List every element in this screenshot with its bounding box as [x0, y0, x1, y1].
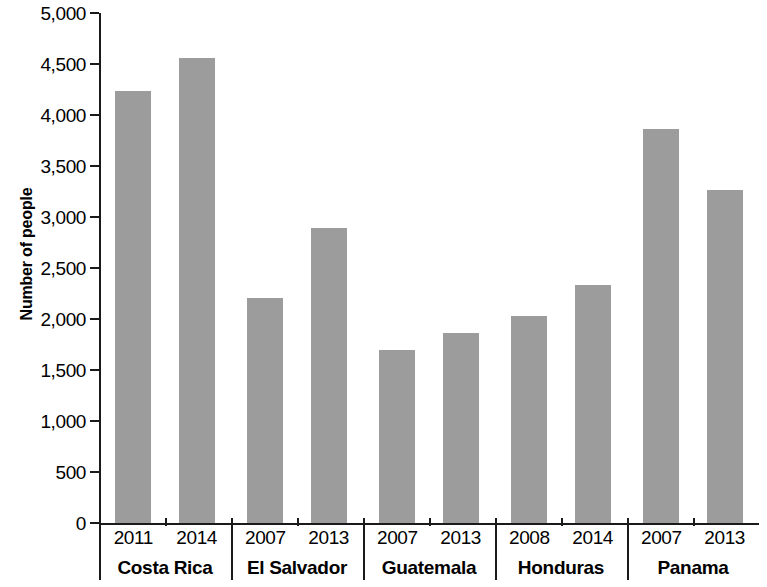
y-axis-tick-mark: [90, 369, 99, 371]
x-axis-year-label: 2013: [693, 527, 757, 549]
x-axis-year-label: 2013: [297, 527, 361, 549]
plot-area: [99, 13, 759, 523]
x-axis-year-label: 2013: [429, 527, 493, 549]
x-axis-year-label: 2008: [497, 527, 561, 549]
y-axis-tick-label: 1,500: [0, 361, 86, 380]
y-axis-tick-mark: [90, 63, 99, 65]
x-axis-year-label: 2007: [629, 527, 693, 549]
x-axis-group-divider: [99, 518, 101, 580]
y-axis-tick-label: 1,000: [0, 412, 86, 431]
y-axis-tick-mark: [90, 318, 99, 320]
x-axis-sub-tick: [429, 518, 431, 526]
x-axis-label-band: 20112014Costa Rica20072013El Salvador200…: [99, 525, 759, 587]
y-axis-tick-label: 3,000: [0, 208, 86, 227]
bar: [575, 285, 611, 523]
bar: [707, 190, 743, 523]
y-axis-tick-mark: [90, 420, 99, 422]
y-axis-tick-mark: [90, 216, 99, 218]
bar: [379, 350, 415, 523]
x-axis-sub-tick: [297, 518, 299, 526]
x-axis-sub-tick: [165, 518, 167, 526]
x-axis-year-label: 2014: [165, 527, 229, 549]
bar: [179, 58, 215, 523]
y-axis-tick-label: 5,000: [0, 4, 86, 23]
bar: [511, 316, 547, 523]
y-axis-tick-mark: [90, 522, 99, 524]
bar: [311, 228, 347, 523]
bar-chart: Number of people 5,0004,5004,0003,5003,0…: [0, 0, 767, 587]
bar: [115, 91, 151, 523]
x-axis-year-label: 2014: [561, 527, 625, 549]
bar: [443, 333, 479, 523]
y-axis-tick-mark: [90, 12, 99, 14]
x-axis-year-label: 2011: [101, 527, 165, 549]
y-axis-tick-mark: [90, 267, 99, 269]
y-axis-tick-label: 3,500: [0, 157, 86, 176]
bar: [643, 129, 679, 523]
y-axis-tick-mark: [90, 471, 99, 473]
y-axis-tick-mark: [90, 114, 99, 116]
x-axis-year-label: 2007: [365, 527, 429, 549]
y-axis-tick-label: 2,500: [0, 259, 86, 278]
y-axis-tick-label: 500: [0, 463, 86, 482]
bar: [247, 298, 283, 523]
y-axis-tick-label: 4,000: [0, 106, 86, 125]
y-axis-tick-labels: 5,0004,5004,0003,5003,0002,5002,0001,500…: [0, 0, 86, 587]
y-axis-tick-mark: [90, 165, 99, 167]
y-axis-tick-label: 4,500: [0, 55, 86, 74]
y-axis-tick-label: 2,000: [0, 310, 86, 329]
x-axis-country-label: Panama: [598, 557, 767, 579]
y-axis-tick-label: 0: [0, 514, 86, 533]
x-axis-sub-tick: [693, 518, 695, 526]
x-axis-year-label: 2007: [233, 527, 297, 549]
x-axis-sub-tick: [561, 518, 563, 526]
